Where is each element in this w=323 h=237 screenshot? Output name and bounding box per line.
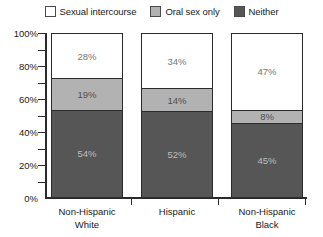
bar-segment-neither[interactable]: 52% xyxy=(141,112,213,198)
legend-swatch-icon-oral-sex-only xyxy=(150,6,161,17)
stacked-bar-chart: Sexual intercourse Oral sex only Neither… xyxy=(0,0,323,237)
legend-item-oral-sex-only: Oral sex only xyxy=(150,6,219,17)
y-axis-labels: 100% 80% 60% 40% 20% 0% xyxy=(0,20,40,198)
bar-hispanic[interactable]: 34% 14% 52% xyxy=(141,33,213,198)
y-tick-label-40: 40% xyxy=(19,127,38,138)
x-axis-label-hispanic: Hispanic xyxy=(127,206,227,219)
y-axis-tick-50 xyxy=(38,116,45,117)
bar-non-hispanic-white[interactable]: 28% 19% 54% xyxy=(51,33,123,198)
x-axis-label-line-2: Black xyxy=(217,219,317,232)
y-axis-tick-80 xyxy=(38,66,45,67)
x-axis-label-non-hispanic-black: Non-Hispanic Black xyxy=(217,206,317,231)
x-axis-label-line-1: Non-Hispanic xyxy=(217,206,317,219)
bar-segment-neither[interactable]: 54% xyxy=(51,111,123,198)
bar-segment-value: 19% xyxy=(77,89,96,100)
x-axis-label-non-hispanic-white: Non-Hispanic White xyxy=(37,206,137,231)
legend-swatch-icon-neither xyxy=(234,6,245,17)
legend-label-neither: Neither xyxy=(249,6,279,17)
plot-area: 100% 80% 60% 40% 20% 0% 28% xyxy=(0,20,323,237)
y-axis-tick-90 xyxy=(38,50,45,51)
bar-segment-oral-sex-only[interactable]: 14% xyxy=(141,89,213,112)
legend-item-sexual-intercourse: Sexual intercourse xyxy=(45,6,137,17)
bar-segment-sexual-intercourse[interactable]: 28% xyxy=(51,33,123,79)
x-axis-tick-1 xyxy=(131,199,132,205)
x-axis-labels: Non-Hispanic White Hispanic Non-Hispanic… xyxy=(45,206,307,236)
x-axis-tick-3 xyxy=(305,199,306,205)
x-axis-label-line-1: Non-Hispanic xyxy=(37,206,137,219)
y-tick-label-100: 100% xyxy=(14,28,38,39)
y-axis-tick-100 xyxy=(38,33,45,34)
bar-segment-value: 52% xyxy=(167,149,186,160)
legend-item-neither: Neither xyxy=(234,6,279,17)
x-axis-label-line-1: Hispanic xyxy=(127,206,227,219)
bar-segment-value: 28% xyxy=(77,51,96,62)
x-axis-tick-2 xyxy=(218,199,219,205)
y-tick-label-20: 20% xyxy=(19,160,38,171)
y-tick-label-0: 0% xyxy=(24,193,38,204)
y-tick-label-60: 60% xyxy=(19,94,38,105)
y-axis-tick-20 xyxy=(38,165,45,166)
bar-segment-oral-sex-only[interactable]: 19% xyxy=(51,79,123,110)
legend-swatch-icon-sexual-intercourse xyxy=(45,6,56,17)
y-axis-tick-40 xyxy=(38,132,45,133)
y-axis-tick-10 xyxy=(38,182,45,183)
y-axis-tick-30 xyxy=(38,149,45,150)
chart-legend: Sexual intercourse Oral sex only Neither xyxy=(0,2,323,20)
bar-segment-sexual-intercourse[interactable]: 34% xyxy=(141,33,213,89)
bar-segment-value: 34% xyxy=(167,56,186,67)
bar-segment-value: 54% xyxy=(77,148,96,159)
legend-label-sexual-intercourse: Sexual intercourse xyxy=(60,6,137,17)
y-axis-tick-60 xyxy=(38,99,45,100)
bar-segment-sexual-intercourse[interactable]: 47% xyxy=(231,33,303,111)
bar-non-hispanic-black[interactable]: 47% 8% 45% xyxy=(231,33,303,198)
bar-segment-oral-sex-only[interactable]: 8% xyxy=(231,111,303,124)
x-axis-label-line-2: White xyxy=(37,219,137,232)
bar-segment-value: 14% xyxy=(167,95,186,106)
bar-segment-value: 47% xyxy=(257,66,276,77)
y-tick-label-80: 80% xyxy=(19,61,38,72)
y-axis-tick-70 xyxy=(38,83,45,84)
legend-label-oral-sex-only: Oral sex only xyxy=(165,6,219,17)
bar-segment-neither[interactable]: 45% xyxy=(231,124,303,198)
bars-container: 28% 19% 54% 34% 14% 52% xyxy=(45,33,307,198)
bar-segment-value: 45% xyxy=(257,155,276,166)
bar-segment-value: 8% xyxy=(260,111,274,122)
